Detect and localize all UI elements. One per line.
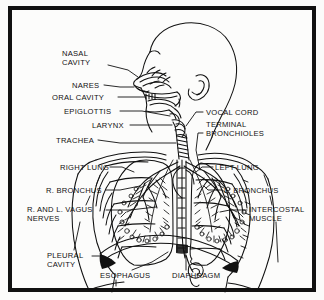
label-larynx-line1: LARYNX — [92, 121, 124, 130]
label-left-lung-line1: LEFT LUNG — [215, 163, 259, 172]
label-nasal-cavity-line2: CAVITY — [62, 58, 90, 67]
label-vagus-nerves-line1: R. AND L. VAGUS — [27, 205, 93, 214]
label-intercostal-muscle: INTERCOSTAL MUSCLE — [249, 205, 304, 223]
respiratory-system-figure: NASAL CAVITY NARES ORAL CAVITY EPIGLOTTI… — [0, 0, 324, 300]
label-diaphragm-line1: DIAPHRAGM — [172, 271, 220, 280]
label-epiglottis: EPIGLOTTIS — [64, 107, 111, 116]
label-nasal-cavity: NASAL CAVITY — [62, 49, 90, 67]
label-left-lung: LEFT LUNG — [215, 163, 259, 172]
label-right-lung-line1: RIGHT LUNG — [60, 163, 109, 172]
label-r-bronchus: R. BRONCHUS — [46, 186, 102, 195]
label-nasal-cavity-line1: NASAL — [62, 49, 90, 58]
label-vagus-nerves-line2: NERVES — [27, 214, 93, 223]
label-esophagus-line1: ESOPHAGUS — [100, 271, 150, 280]
label-vocal-cord-line1: VOCAL CORD — [206, 108, 258, 117]
label-right-lung: RIGHT LUNG — [60, 163, 109, 172]
label-oral-cavity-line1: ORAL CAVITY — [52, 93, 104, 102]
label-pleural-cavity-line2: CAVITY — [47, 260, 83, 269]
label-vagus-nerves: R. AND L. VAGUS NERVES — [27, 205, 93, 223]
label-nares: NARES — [72, 81, 99, 90]
label-r-bronchus-line1: R. BRONCHUS — [46, 186, 102, 195]
label-larynx: LARYNX — [92, 121, 124, 130]
label-oral-cavity: ORAL CAVITY — [52, 93, 104, 102]
label-terminal-bronchioles-line2: BRONCHIOLES — [206, 129, 264, 138]
label-diaphragm: DIAPHRAGM — [172, 271, 220, 280]
label-esophagus: ESOPHAGUS — [100, 271, 150, 280]
label-pleural-cavity-line1: PLEURAL — [47, 251, 83, 260]
label-epiglottis-line1: EPIGLOTTIS — [64, 107, 111, 116]
label-trachea: TRACHEA — [56, 136, 94, 145]
label-nares-line1: NARES — [72, 81, 99, 90]
label-pleural-cavity: PLEURAL CAVITY — [47, 251, 83, 269]
label-intercostal-muscle-line2: MUSCLE — [249, 214, 304, 223]
label-terminal-bronchioles-line1: TERMINAL — [206, 120, 264, 129]
label-intercostal-muscle-line1: INTERCOSTAL — [249, 205, 304, 214]
label-l-bronchus-line1: L. BRONCHUS — [224, 186, 279, 195]
label-terminal-bronchioles: TERMINAL BRONCHIOLES — [206, 120, 264, 138]
label-trachea-line1: TRACHEA — [56, 136, 94, 145]
label-vocal-cord: VOCAL CORD — [206, 108, 258, 117]
label-l-bronchus: L. BRONCHUS — [224, 186, 279, 195]
